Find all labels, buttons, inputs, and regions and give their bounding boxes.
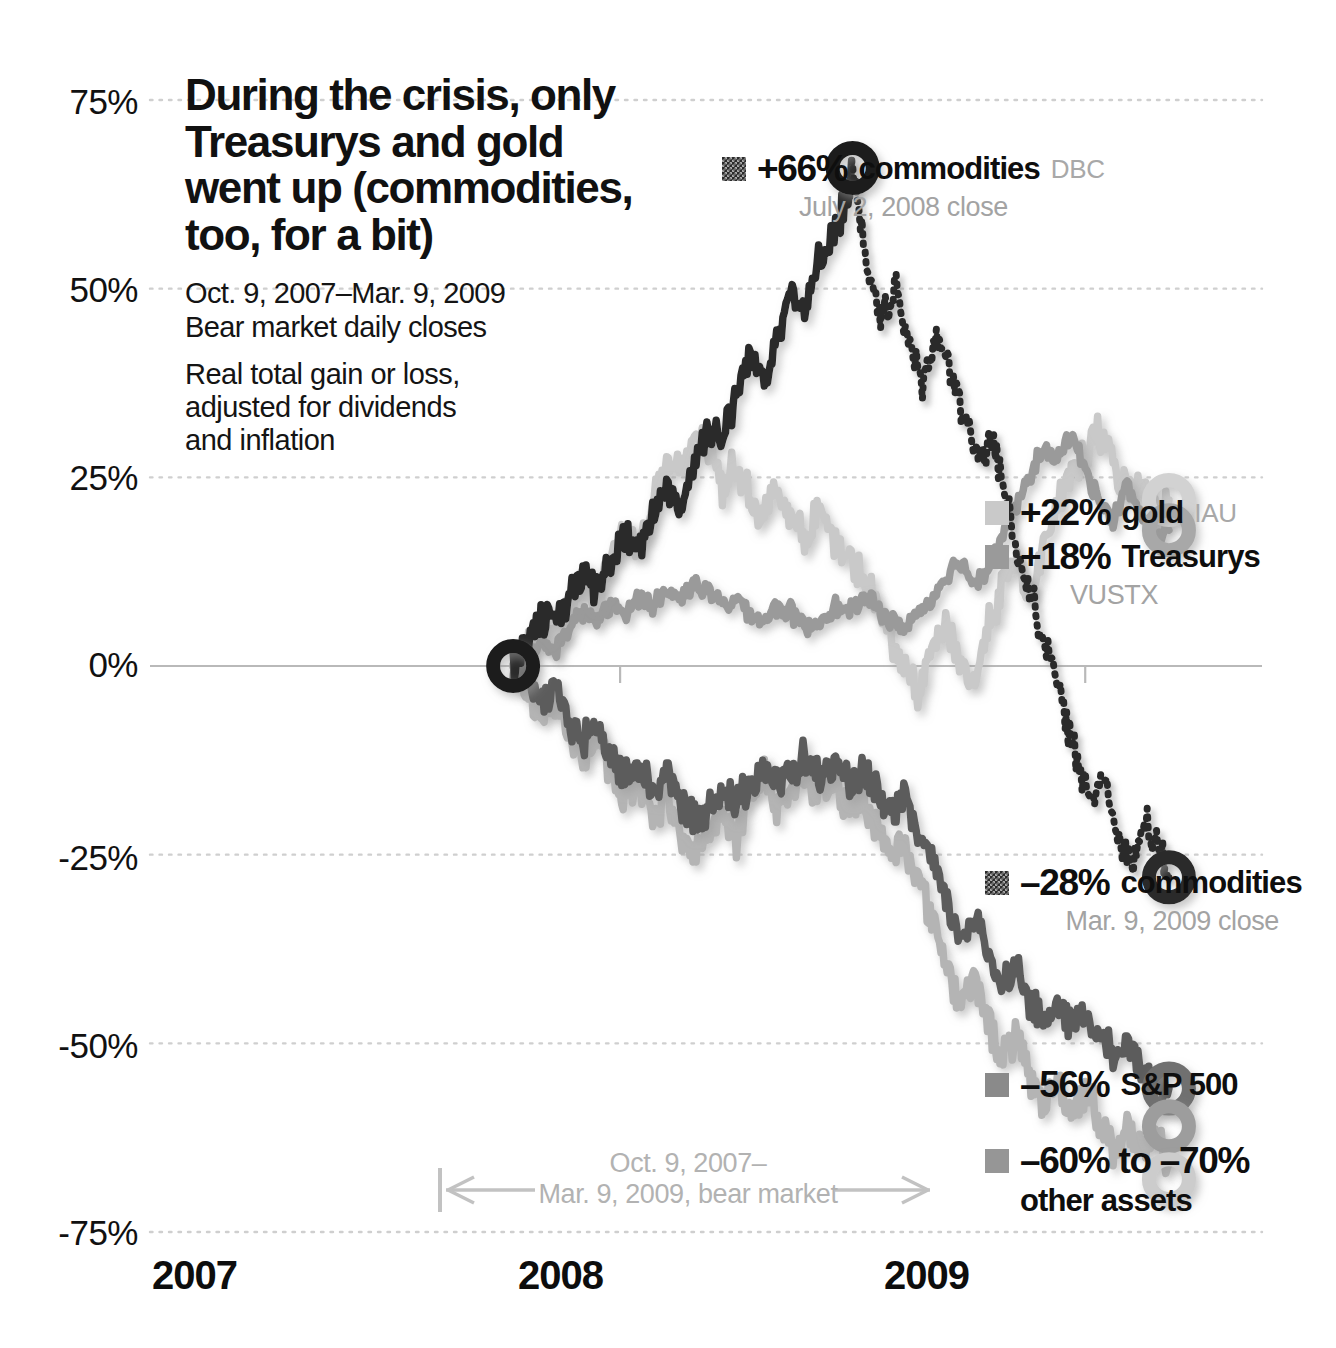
gold-ticker: IAU [1194, 498, 1236, 529]
gold-name: gold [1121, 495, 1183, 531]
commodities-end-value: –28% [1020, 862, 1109, 904]
subhead-daterange: Oct. 9, 2007–Mar. 9, 2009 [185, 277, 655, 310]
treasurys-value: +18% [1020, 536, 1110, 578]
headline-line-2: Treasurys and gold [185, 119, 655, 166]
y-tick-75: 75% [18, 82, 138, 122]
subhead-closes: Bear market daily closes [185, 311, 655, 344]
other-assets-value: –60% to –70% [1020, 1140, 1249, 1182]
treasurys-swatch-icon [985, 545, 1009, 569]
commodities-peak-sub: July 2, 2008 close [702, 192, 1105, 223]
subhead-note-line-1: Real total gain or loss, [185, 358, 655, 391]
headline-line-1: During the crisis, only [185, 72, 655, 119]
y-tick-neg50: -50% [18, 1026, 138, 1066]
sp500-value: –56% [1020, 1064, 1109, 1106]
headline-block: During the crisis, only Treasurys and go… [185, 72, 655, 457]
callout-commodities-end: –28% commodities Mar. 9, 2009 close [985, 862, 1302, 937]
sp500-name: S&P 500 [1120, 1067, 1237, 1103]
x-tick-2009: 2009 [884, 1253, 969, 1298]
commodities-end-swatch-icon [985, 871, 1009, 895]
commodities-end-name: commodities [1120, 865, 1301, 901]
y-tick-neg25: -25% [18, 838, 138, 878]
bear-note-line-1: Oct. 9, 2007– [508, 1148, 868, 1179]
y-tick-0: 0% [18, 645, 138, 685]
other-assets-name: other assets [1020, 1183, 1249, 1219]
commodities-peak-name: commodities [858, 151, 1039, 187]
y-tick-neg75: -75% [18, 1213, 138, 1253]
subhead-note-line-3: and inflation [185, 424, 655, 457]
commodities-swatch-icon [722, 157, 746, 181]
y-tick-50: 50% [18, 270, 138, 310]
other-assets-swatch-icon [985, 1149, 1009, 1173]
callout-other-assets: –60% to –70% other assets [985, 1140, 1249, 1219]
sp500-swatch-icon [985, 1073, 1009, 1097]
x-tick-2007: 2007 [152, 1253, 237, 1298]
commodities-peak-ticker: DBC [1051, 154, 1105, 185]
y-tick-25: 25% [18, 458, 138, 498]
gold-value: +22% [1020, 492, 1110, 534]
bear-market-note: Oct. 9, 2007– Mar. 9, 2009, bear market [508, 1148, 868, 1211]
chart-root: 75% 50% 25% 0% -25% -50% -75% 2007 2008 … [0, 0, 1336, 1348]
treasurys-ticker: VUSTX [985, 580, 1243, 611]
gold-swatch-icon [985, 501, 1009, 525]
x-tick-2008: 2008 [518, 1253, 603, 1298]
treasurys-name: Treasurys [1121, 539, 1259, 575]
commodities-peak-value: +66% [757, 148, 847, 190]
callout-commodities-peak: +66% commodities DBC July 2, 2008 close [722, 148, 1105, 223]
bear-note-line-2: Mar. 9, 2009, bear market [508, 1179, 868, 1210]
x-axis-tickmarks [620, 666, 1085, 683]
commodities-end-sub: Mar. 9, 2009 close [985, 906, 1279, 937]
headline-line-3: went up (commodities, [185, 165, 655, 212]
callout-gold: +22% gold IAU [985, 492, 1237, 534]
headline-line-4: too, for a bit) [185, 212, 655, 259]
callout-sp500: –56% S&P 500 [985, 1064, 1238, 1106]
subhead-note-line-2: adjusted for dividends [185, 391, 655, 424]
callout-treasurys: +18% Treasurys VUSTX [985, 536, 1260, 611]
